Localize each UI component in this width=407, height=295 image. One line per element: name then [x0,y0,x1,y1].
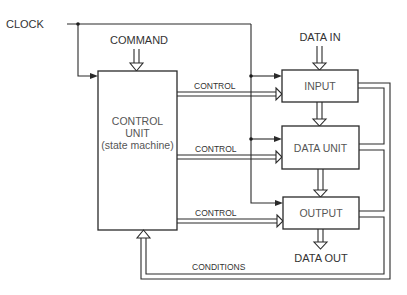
clock-arrow-input [274,73,282,79]
bus-input-to-data-unit [313,102,326,126]
control-unit: CONTROL UNIT (state machine) [98,71,177,230]
control-arrow-icon [277,215,283,227]
command-label: COMMAND [110,34,168,46]
conditions-label: CONDITIONS [192,262,246,272]
clock-arrow-control-unit [90,73,98,79]
data-unit-block: DATA UNIT [282,126,359,169]
data-out-label: DATA OUT [294,252,348,264]
control-bus-label: CONTROL [195,208,237,218]
control-arrow-icon [276,151,282,163]
output-block-label: OUTPUT [299,207,343,219]
control-arrow-icon [276,88,282,100]
clock-arrow-data-unit [274,136,282,142]
conditions-arrow-icon [137,230,150,238]
control-bus-label: CONTROL [194,81,236,91]
control-bus-output: CONTROL [177,208,283,227]
data-out-bus: DATA OUT [294,229,348,264]
control-unit-line3: (state machine) [101,139,173,151]
data-unit-block-label: DATA UNIT [294,142,348,154]
input-block-label: INPUT [304,80,336,92]
command-arrow-icon [130,63,143,71]
control-bus-data-unit: CONTROL [177,144,282,163]
clock-arrow-output [275,200,283,206]
data-in-bus: DATA IN [299,31,340,70]
output-block: OUTPUT [283,197,359,229]
data-in-label: DATA IN [299,31,340,43]
data-out-arrow-icon [314,242,327,249]
data-in-arrow-icon [313,63,326,70]
control-unit-line2: UNIT [125,127,150,139]
control-bus-label: CONTROL [195,144,237,154]
block-diagram: CLOCK COMMAND CONTROL UNIT (state machin… [0,0,407,295]
control-bus-input: CONTROL [177,81,282,100]
command-bus: COMMAND [110,34,168,71]
clock-label: CLOCK [6,18,45,30]
bus-data-unit-to-output [314,169,327,197]
input-block: INPUT [282,70,358,102]
control-unit-line1: CONTROL [112,115,163,127]
